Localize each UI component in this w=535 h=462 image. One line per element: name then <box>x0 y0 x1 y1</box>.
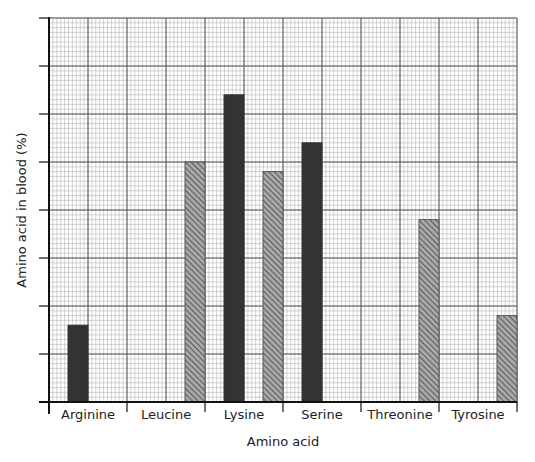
x-tick-label-leucine: Leucine <box>141 407 191 422</box>
bar-serine-solid <box>302 143 322 402</box>
bar-chart: ArginineLeucineLysineSerineThreonineTyro… <box>0 0 535 462</box>
x-axis-title: Amino acid <box>247 434 319 449</box>
bar-arginine-solid <box>68 325 88 402</box>
x-tick-label-serine: Serine <box>301 407 342 422</box>
bar-threonine-hatched <box>419 220 439 402</box>
x-tick-label-tyrosine: Tyrosine <box>450 407 504 422</box>
x-tick-label-arginine: Arginine <box>61 407 115 422</box>
y-axis-title: Amino acid in blood (%) <box>14 132 29 287</box>
bar-lysine-hatched <box>263 172 283 402</box>
x-tick-label-threonine: Threonine <box>366 407 432 422</box>
bar-leucine-hatched <box>185 162 205 402</box>
bar-lysine-solid <box>224 95 244 402</box>
bar-tyrosine-hatched <box>497 316 517 402</box>
x-tick-label-lysine: Lysine <box>224 407 264 422</box>
